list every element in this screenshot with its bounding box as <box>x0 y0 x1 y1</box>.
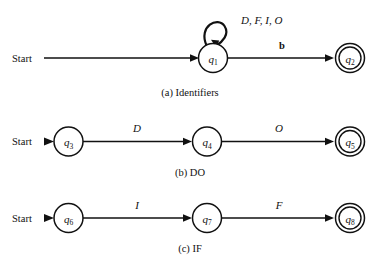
diagram-b-do: Start q3 D q4 O q5 (b) DO <box>12 122 365 179</box>
automata-figure: Start D, F, I, O q1 b q2 (a) Identifiers <box>0 0 380 267</box>
transition-arrow-head-q6-q7 <box>183 214 192 222</box>
start-label-a: Start <box>12 53 32 64</box>
transition-label-q4-q5: O <box>275 122 283 134</box>
start-arrow-head-b <box>44 137 54 145</box>
transition-arrow-head-q4-q5 <box>325 138 334 146</box>
caption-c: (c) IF <box>178 243 202 255</box>
diagram-c-if: Start q6 I q7 F q8 (c) IF <box>12 199 365 256</box>
transition-label-q1-q2: b <box>279 40 285 51</box>
transition-label-q7-q8: F <box>275 199 283 211</box>
transition-label-q6-q7: I <box>134 199 140 211</box>
start-label-c: Start <box>12 213 32 224</box>
start-label-b: Start <box>12 136 32 147</box>
caption-a: (a) Identifiers <box>161 87 218 99</box>
automata-diagram-canvas: Start D, F, I, O q1 b q2 (a) Identifiers <box>0 0 380 267</box>
transition-arrow-head-q1-q2 <box>325 54 334 62</box>
transition-label-q3-q4: D <box>132 122 141 134</box>
transition-arrow-head-q3-q4 <box>183 138 192 146</box>
transition-arrow-head-q7-q8 <box>325 214 334 222</box>
caption-b: (b) DO <box>175 167 205 179</box>
diagram-a-identifiers: Start D, F, I, O q1 b q2 (a) Identifiers <box>12 14 365 99</box>
transition-label-q1-q1: D, F, I, O <box>240 14 282 26</box>
start-arrow-head-c <box>44 214 54 222</box>
start-arrow-head-a <box>190 54 199 62</box>
